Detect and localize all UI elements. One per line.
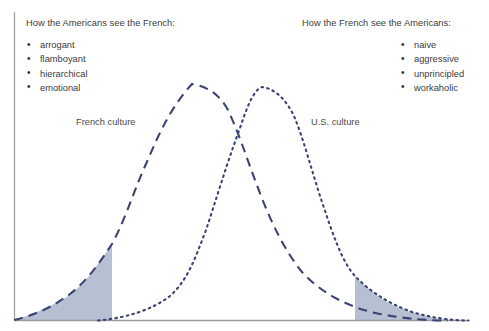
curve-label-french-culture: French culture xyxy=(76,117,135,127)
list-item: aggressive xyxy=(400,52,464,66)
right-panel-heading: How the French see the Americans: xyxy=(302,18,451,28)
curve-us-culture xyxy=(98,87,468,321)
shaded-region-us-right-tail xyxy=(355,276,448,320)
list-item: hierarchical xyxy=(26,67,88,81)
left-panel-trait-list: arrogant flamboyant hierarchical emotion… xyxy=(26,38,88,95)
list-item: naive xyxy=(400,38,464,52)
curve-label-us-culture: U.S. culture xyxy=(311,117,360,127)
figure-canvas: How the Americans see the French: arroga… xyxy=(0,0,489,331)
shaded-region-french-left-tail xyxy=(14,244,112,320)
list-item: arrogant xyxy=(26,38,88,52)
list-item: emotional xyxy=(26,81,88,95)
list-item: workaholic xyxy=(400,81,464,95)
list-item: flamboyant xyxy=(26,52,88,66)
right-panel-trait-list: naive aggressive unprincipled workaholic xyxy=(400,38,464,95)
left-panel-heading: How the Americans see the French: xyxy=(26,18,175,28)
list-item: unprincipled xyxy=(400,67,464,81)
